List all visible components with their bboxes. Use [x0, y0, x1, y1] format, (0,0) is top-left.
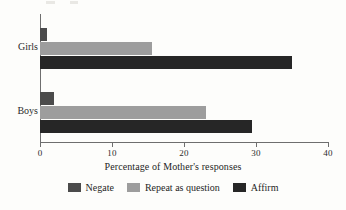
legend-item-negate: Negate — [68, 182, 114, 193]
category-label-girls: Girls — [0, 41, 38, 52]
scan-artifact — [46, 1, 55, 4]
legend-label: Repeat as question — [145, 182, 220, 193]
bar-girls-affirm — [40, 56, 292, 69]
x-axis-tick — [112, 142, 113, 147]
legend-label: Affirm — [251, 182, 279, 193]
x-axis-tick-label: 10 — [107, 148, 116, 158]
bar-boys-repeat-as-question — [40, 106, 206, 119]
x-axis-tick — [256, 142, 257, 147]
bar-boys-negate — [40, 92, 54, 105]
x-axis-tick-label: 20 — [179, 148, 188, 158]
bar-boys-affirm — [40, 120, 252, 133]
x-axis-tick-label: 0 — [38, 148, 43, 158]
horizontal-bar-chart: 010203040 GirlsBoys Percentage of Mother… — [0, 0, 346, 210]
bar-girls-repeat-as-question — [40, 42, 152, 55]
x-axis-tick — [184, 142, 185, 147]
x-axis-tick-label: 30 — [251, 148, 260, 158]
x-axis-tick — [328, 142, 329, 147]
x-axis-title: Percentage of Mother's responses — [0, 161, 346, 172]
legend-swatch-icon — [68, 183, 81, 192]
plot-area — [40, 14, 328, 142]
legend-label: Negate — [86, 182, 114, 193]
legend-item-affirm: Affirm — [233, 182, 279, 193]
legend-swatch-icon — [127, 183, 140, 192]
bar-girls-negate — [40, 28, 47, 41]
x-axis-tick — [40, 142, 41, 147]
legend-item-repeat-as-question: Repeat as question — [127, 182, 220, 193]
legend-swatch-icon — [233, 183, 246, 192]
scan-artifact — [70, 1, 78, 4]
chart-legend: Negate Repeat as question Affirm — [0, 182, 346, 193]
x-axis-tick-label: 40 — [323, 148, 332, 158]
category-label-boys: Boys — [0, 105, 38, 116]
